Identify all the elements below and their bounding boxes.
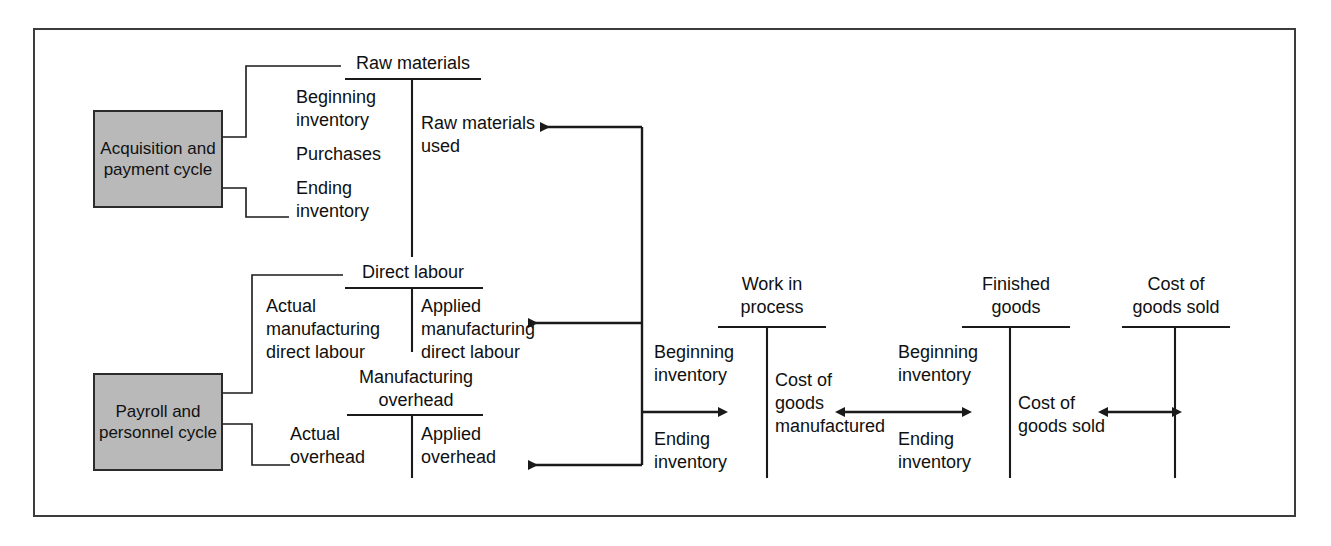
raw-materials-used: Raw materials used [421, 112, 571, 158]
cost-of-goods-sold-title: Cost of goods sold [1096, 273, 1256, 319]
raw-materials-title: Raw materials [333, 52, 493, 75]
finished-goods-cost-of-goods-sold: Cost of goods sold [1018, 392, 1148, 438]
manufacturing-overhead-actual: Actual overhead [290, 423, 412, 469]
raw-materials-ending-inventory: Ending inventory [296, 177, 414, 223]
finished-goods-beginning-inventory: Beginning inventory [898, 341, 1016, 387]
finished-goods-title: Finished goods [936, 273, 1096, 319]
raw-materials-beginning-inventory: Beginning inventory [296, 86, 414, 132]
finished-goods-ending-inventory: Ending inventory [898, 428, 1016, 474]
work-in-process-title: Work in process [692, 273, 852, 319]
acquisition-and-payment-cycle-box[interactable]: Acquisition and payment cycle [93, 110, 223, 208]
direct-labour-title: Direct labour [333, 261, 493, 284]
direct-labour-applied: Applied manufacturing direct labour [421, 295, 576, 364]
diagram-canvas: Acquisition and payment cycle Payroll an… [0, 0, 1331, 546]
manufacturing-overhead-title: Manufacturing overhead [323, 366, 509, 412]
payroll-cycle-label: Payroll and personnel cycle [95, 401, 221, 443]
payroll-and-personnel-cycle-box[interactable]: Payroll and personnel cycle [93, 373, 223, 471]
raw-materials-purchases: Purchases [296, 143, 414, 166]
acquisition-cycle-label: Acquisition and payment cycle [95, 138, 221, 180]
manufacturing-overhead-applied: Applied overhead [421, 423, 543, 469]
work-in-process-ending-inventory: Ending inventory [654, 428, 772, 474]
work-in-process-beginning-inventory: Beginning inventory [654, 341, 772, 387]
direct-labour-actual: Actual manufacturing direct labour [266, 295, 412, 364]
